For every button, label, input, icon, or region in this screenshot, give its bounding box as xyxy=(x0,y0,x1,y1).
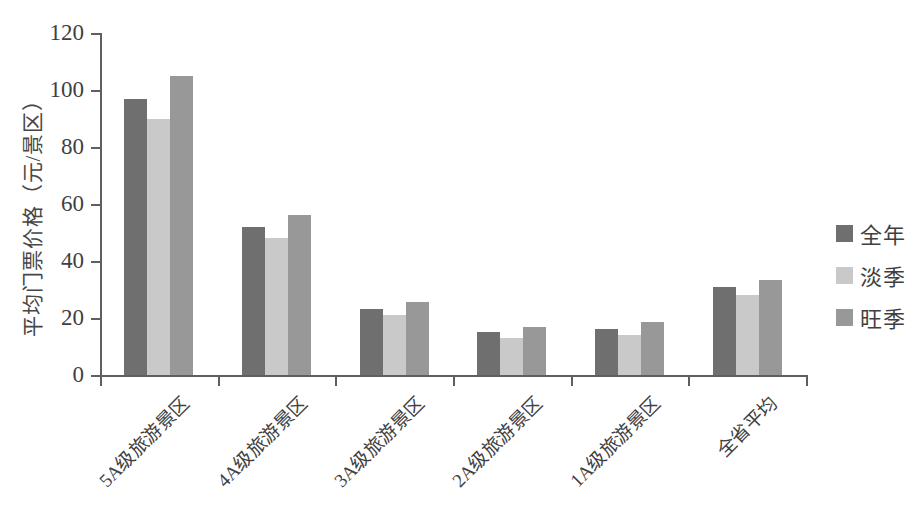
y-axis-tick-label: 60 xyxy=(61,191,84,217)
legend-item-label: 旺季 xyxy=(860,301,906,333)
y-axis-tick-label: 120 xyxy=(50,20,85,46)
y-axis-tick: 120 xyxy=(91,33,100,35)
y-axis-tick: 0 xyxy=(91,375,100,377)
bar xyxy=(736,295,759,375)
x-axis-tick xyxy=(218,375,220,386)
bar xyxy=(242,227,265,375)
bar-group xyxy=(124,33,193,375)
legend-color-swatch xyxy=(836,225,853,242)
bar xyxy=(288,215,311,375)
y-axis-tick-label: 20 xyxy=(61,305,84,331)
bar xyxy=(641,322,664,375)
legend-color-swatch xyxy=(836,309,853,326)
chart-legend: 全年淡季旺季 xyxy=(836,212,906,338)
y-axis-tick: 40 xyxy=(91,261,100,263)
bar-group xyxy=(713,33,782,375)
bar-group xyxy=(242,33,311,375)
bar-chart: 平均门票价格（元/景区） 120100806040200 5A级旅游景区4A级旅… xyxy=(0,0,924,531)
legend-item[interactable]: 淡季 xyxy=(836,254,906,296)
bar xyxy=(523,327,546,375)
bar-group xyxy=(360,33,429,375)
legend-item[interactable]: 全年 xyxy=(836,212,906,254)
bar xyxy=(170,76,193,375)
x-axis-tick xyxy=(453,375,455,386)
plot-area: 120100806040200 xyxy=(100,33,806,375)
bar xyxy=(713,287,736,375)
y-axis-tick-label: 0 xyxy=(73,362,85,388)
y-axis-tick-label: 40 xyxy=(61,248,84,274)
y-axis-tick-label: 80 xyxy=(61,134,84,160)
y-axis-tick: 80 xyxy=(91,147,100,149)
x-axis-tick xyxy=(335,375,337,386)
x-axis-tick xyxy=(571,375,573,386)
bar xyxy=(383,315,406,375)
bar xyxy=(124,99,147,375)
y-axis-tick-label: 100 xyxy=(50,77,85,103)
x-axis-label: 1A级旅游景区 xyxy=(0,389,665,531)
x-axis-tick xyxy=(688,375,690,386)
bar-group xyxy=(477,33,546,375)
bar-group xyxy=(595,33,664,375)
y-axis-tick: 60 xyxy=(91,204,100,206)
bar xyxy=(406,302,429,375)
bar xyxy=(477,332,500,375)
bar xyxy=(500,338,523,375)
bar xyxy=(618,335,641,375)
legend-item-label: 淡季 xyxy=(860,259,906,291)
bar xyxy=(147,119,170,376)
bar xyxy=(360,309,383,375)
bar xyxy=(759,280,782,375)
x-axis-tick xyxy=(100,375,102,386)
y-axis-title: 平均门票价格（元/景区） xyxy=(16,63,46,363)
x-axis-label: 5A级旅游景区 xyxy=(0,389,194,531)
x-axis-tick xyxy=(806,375,808,386)
y-axis-tick: 100 xyxy=(91,90,100,92)
bar xyxy=(595,329,618,375)
legend-item[interactable]: 旺季 xyxy=(836,296,906,338)
legend-item-label: 全年 xyxy=(860,217,906,249)
y-axis-line xyxy=(100,33,102,375)
legend-color-swatch xyxy=(836,267,853,284)
bar xyxy=(265,238,288,375)
y-axis-tick: 20 xyxy=(91,318,100,320)
